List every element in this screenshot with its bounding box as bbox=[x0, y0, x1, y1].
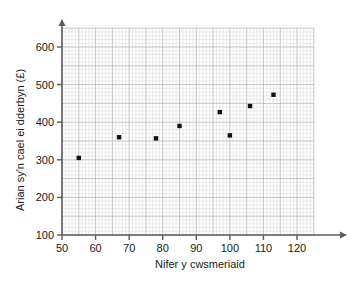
data-point bbox=[228, 133, 232, 137]
y-axis-ticks: 100200300400500600 bbox=[36, 41, 62, 241]
x-tick-label: 110 bbox=[255, 242, 273, 254]
data-point bbox=[218, 110, 222, 114]
y-axis-arrow-icon bbox=[59, 19, 66, 26]
x-axis-arrow-icon bbox=[340, 232, 347, 239]
y-tick-label: 100 bbox=[36, 229, 54, 241]
data-point bbox=[77, 156, 81, 160]
x-tick-label: 120 bbox=[288, 242, 306, 254]
x-axis-ticks: 5060708090100110120 bbox=[56, 235, 306, 254]
y-tick-label: 300 bbox=[36, 154, 54, 166]
data-point bbox=[117, 135, 121, 139]
y-tick-label: 200 bbox=[36, 191, 54, 203]
scatter-chart: 100200300400500600 5060708090100110120 A… bbox=[0, 0, 355, 294]
chart-canvas: 100200300400500600 5060708090100110120 A… bbox=[0, 0, 355, 294]
x-tick-label: 90 bbox=[190, 242, 202, 254]
grid-major bbox=[62, 28, 314, 235]
x-tick-label: 100 bbox=[221, 242, 239, 254]
data-point bbox=[177, 124, 181, 128]
x-tick-label: 80 bbox=[157, 242, 169, 254]
y-tick-label: 500 bbox=[36, 79, 54, 91]
x-tick-label: 50 bbox=[56, 242, 68, 254]
y-tick-label: 600 bbox=[36, 41, 54, 53]
data-point bbox=[271, 93, 275, 97]
x-tick-label: 70 bbox=[123, 242, 135, 254]
y-tick-label: 400 bbox=[36, 116, 54, 128]
x-tick-label: 60 bbox=[89, 242, 101, 254]
x-axis-label: Nifer y cwsmeriaid bbox=[155, 258, 245, 270]
data-point bbox=[154, 136, 158, 140]
y-axis-label: Arian sy'n cael ei dderbyn (£) bbox=[14, 69, 26, 211]
data-point bbox=[248, 104, 252, 108]
grid-minor bbox=[62, 28, 314, 235]
